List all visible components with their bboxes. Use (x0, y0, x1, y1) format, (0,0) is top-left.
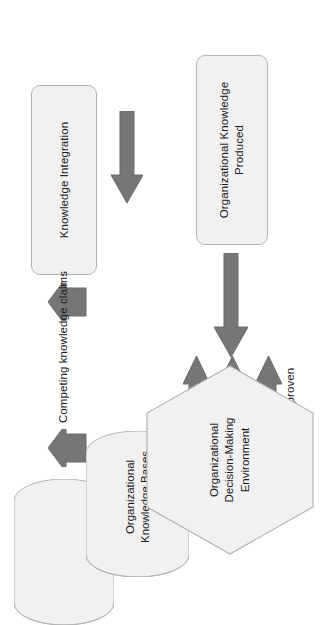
node-knowledge-produced-label-line1: Organizational Knowledge (217, 82, 232, 219)
node-knowledge-produced-label-line2: Produced (232, 82, 247, 219)
node-knowledge-produced-label: Organizational Knowledge Produced (217, 82, 246, 219)
arrow-knowledge-produced-to-integration (111, 111, 143, 203)
arrow-claims-to-knowledge-bases (43, 429, 91, 467)
edge-label-competing-knowledge-claims: Competing knowledge claims (57, 259, 69, 435)
node-knowledge-produced[interactable]: Organizational Knowledge Produced (196, 55, 268, 245)
node-decision-environment[interactable]: Organizational Decision-Making Environme… (146, 365, 314, 555)
arrow-environment-to-knowledge-produced (214, 253, 248, 357)
node-knowledge-integration[interactable]: Knowledge Integration (31, 85, 97, 275)
node-knowledge-integration-label: Knowledge Integration (57, 122, 72, 239)
